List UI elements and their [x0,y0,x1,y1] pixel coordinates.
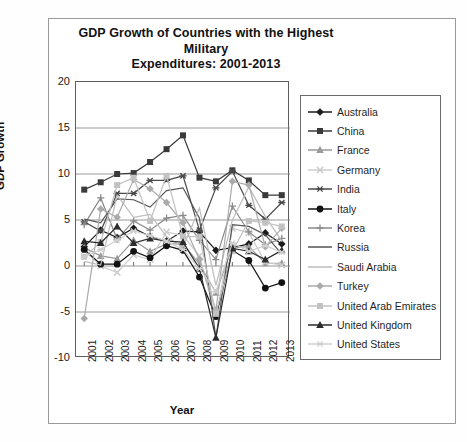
y-tick-15: 15 [58,121,70,133]
x-tick-2008: 2008 [202,340,213,362]
legend-item-italy[interactable]: Italy [307,199,436,218]
chart-title-line-2: Expenditures: 2001-2013 [56,57,356,73]
legend-item-india[interactable]: India [307,180,436,199]
x-tick-2005: 2005 [153,340,164,362]
legend-label: India [337,183,360,195]
x-tick-2011: 2011 [252,340,263,362]
x-tick-2002: 2002 [104,340,115,362]
x-axis-tick-labels: 2001200220032004200520062007200820092010… [75,360,289,400]
legend-label: United Arab Emirates [337,300,436,312]
x-tick-2006: 2006 [170,340,181,362]
legend-marker-plus-icon [307,222,333,234]
chart-legend: AustraliaChinaFranceGermanyIndiaItalyKor… [300,95,441,360]
x-tick-2004: 2004 [137,340,148,362]
x-tick-2010: 2010 [235,340,246,362]
legend-marker-line-icon [307,261,333,273]
legend-marker-diamond-icon [307,106,333,118]
plot-area [75,81,289,357]
legend-marker-triangle-icon [307,319,333,331]
y-tick-10: 10 [58,167,70,179]
legend-label: China [337,125,364,137]
y-tick--10: -10 [54,351,70,363]
chart-screenshot: GDP Growth of Countries with the Highest… [0,0,467,442]
legend-label: United Kingdom [337,319,412,331]
legend-marker-square-icon [307,300,333,312]
y-axis-title: GDP Growth [0,122,6,190]
legend-label: Saudi Arabia [337,261,397,273]
chart-title-line-1: GDP Growth of Countries with the Highest… [56,26,356,57]
x-tick-2012: 2012 [268,340,279,362]
y-tick-0: 0 [64,259,70,271]
legend-item-united-states[interactable]: United States [307,335,436,354]
legend-item-united-kingdom[interactable]: United Kingdom [307,315,436,334]
x-tick-2003: 2003 [120,340,131,362]
y-tick-5: 5 [64,213,70,225]
legend-item-china[interactable]: China [307,121,436,140]
legend-item-korea[interactable]: Korea [307,218,436,237]
series-canvas [76,82,290,358]
legend-marker-asterisk-icon [307,338,333,350]
legend-marker-x-icon [307,164,333,176]
legend-marker-asterisk-icon [307,183,333,195]
legend-marker-square-icon [307,125,333,137]
x-tick-2009: 2009 [219,340,230,362]
legend-item-saudi-arabia[interactable]: Saudi Arabia [307,257,436,276]
legend-item-russia[interactable]: Russia [307,238,436,257]
legend-label: France [337,144,370,156]
legend-label: Australia [337,106,378,118]
y-tick-20: 20 [58,75,70,87]
legend-label: United States [337,338,400,350]
legend-label: Russia [337,241,369,253]
legend-item-united-arab-emirates[interactable]: United Arab Emirates [307,296,436,315]
legend-item-australia[interactable]: Australia [307,102,436,121]
y-tick--5: -5 [60,305,70,317]
legend-item-turkey[interactable]: Turkey [307,277,436,296]
legend-marker-circle-icon [307,203,333,215]
chart-title: GDP Growth of Countries with the Highest… [56,26,356,73]
legend-marker-triangle-icon [307,144,333,156]
legend-label: Germany [337,164,380,176]
legend-marker-diamond-icon [307,280,333,292]
x-axis-title: Year [75,404,289,416]
x-tick-2013: 2013 [285,340,296,362]
legend-label: Italy [337,203,356,215]
y-axis-tick-labels: 20151050-5-10 [20,74,70,364]
x-tick-2001: 2001 [87,340,98,362]
legend-label: Korea [337,222,365,234]
legend-item-germany[interactable]: Germany [307,160,436,179]
legend-item-france[interactable]: France [307,141,436,160]
x-tick-2007: 2007 [186,340,197,362]
legend-marker-line-icon [307,241,333,253]
legend-label: Turkey [337,280,369,292]
